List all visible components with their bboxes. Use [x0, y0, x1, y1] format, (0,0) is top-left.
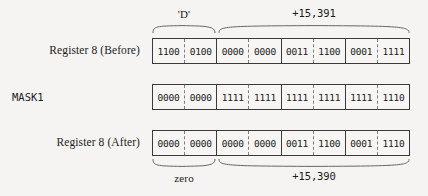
- bit-cell: 1110: [377, 131, 409, 155]
- row-label-register-after: Register 8 (After): [0, 136, 140, 148]
- bit-cell: 0000: [153, 131, 184, 155]
- top-brace-label-value: +15,391: [218, 7, 410, 19]
- bit-cell: 0000: [216, 131, 248, 155]
- register-row-before: 1100 0100 0000 0000 0011 1100 0001 1111: [152, 38, 410, 64]
- row-label-mask: MASK1: [12, 91, 142, 103]
- bit-cell: 0000: [248, 39, 280, 63]
- top-brace-value: [218, 24, 410, 34]
- bit-cell: 1111: [281, 85, 313, 109]
- bit-cell: 1100: [153, 39, 184, 63]
- bit-cell: 1111: [216, 85, 248, 109]
- bit-cell: 1110: [377, 85, 409, 109]
- register-mask-figure: 'D' +15,391 Register 8 (Before) 1100 010…: [0, 0, 428, 196]
- bit-cell: 1111: [345, 85, 377, 109]
- bit-cell: 0000: [153, 85, 184, 109]
- bit-cell: 0000: [216, 39, 248, 63]
- bottom-brace-label-value: +15,390: [218, 170, 410, 182]
- top-brace-char: [152, 24, 216, 34]
- bit-cell: 1111: [377, 39, 409, 63]
- bit-cell: 0001: [345, 39, 377, 63]
- bottom-brace-label-zero: zero: [152, 172, 216, 184]
- bit-cell: 1111: [313, 85, 345, 109]
- bit-cell: 0011: [281, 39, 313, 63]
- row-label-register-before: Register 8 (Before): [0, 44, 140, 56]
- bit-cell: 0000: [184, 85, 216, 109]
- register-row-after: 0000 0000 0000 0000 0011 1100 0001 1110: [152, 130, 410, 156]
- register-row-mask: 0000 0000 1111 1111 1111 1111 1111 1110: [152, 84, 410, 110]
- bit-cell: 0000: [184, 131, 216, 155]
- bit-cell: 0011: [281, 131, 313, 155]
- bottom-brace-zero: [152, 158, 216, 168]
- bottom-brace-value: [218, 158, 410, 168]
- bit-cell: 1100: [313, 39, 345, 63]
- bit-cell: 0100: [184, 39, 216, 63]
- bit-cell: 1100: [313, 131, 345, 155]
- bit-cell: 0001: [345, 131, 377, 155]
- bit-cell: 0000: [248, 131, 280, 155]
- top-brace-label-char: 'D': [152, 8, 216, 20]
- bit-cell: 1111: [248, 85, 280, 109]
